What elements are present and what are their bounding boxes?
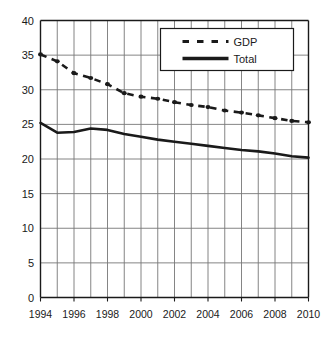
x-axis-tick-label: 1998 bbox=[96, 309, 119, 320]
x-axis-tick-label: 2010 bbox=[297, 309, 320, 320]
x-axis-tick-label: 2008 bbox=[263, 309, 286, 320]
x-axis-tick-label: 2004 bbox=[196, 309, 219, 320]
x-axis-tick-label: 1996 bbox=[62, 309, 85, 320]
x-axis-tick-label: 2006 bbox=[230, 309, 253, 320]
x-axis-tick-labels: 199419961998200020022004200620082010 bbox=[0, 0, 329, 341]
x-axis-tick-label: 2000 bbox=[129, 309, 152, 320]
legend-label-total: Total bbox=[234, 53, 257, 64]
x-axis-tick-label: 1994 bbox=[29, 309, 52, 320]
line-chart: 0510152025303540 19941996199820002002200… bbox=[0, 0, 329, 341]
legend-label-gdp: GDP bbox=[234, 36, 258, 47]
x-axis-tick-label: 2002 bbox=[163, 309, 186, 320]
